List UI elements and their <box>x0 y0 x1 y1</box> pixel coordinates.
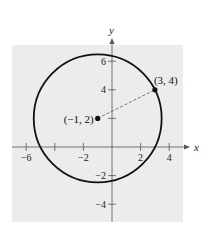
point-label: (3, 4) <box>154 74 178 87</box>
y-axis-arrow-icon <box>110 38 115 44</box>
x-tick-label: −6 <box>21 152 32 163</box>
point-marker <box>152 87 157 92</box>
y-tick-label: 4 <box>101 84 106 95</box>
y-axis-label: y <box>108 24 114 36</box>
y-tick-label: −4 <box>95 199 106 210</box>
y-tick-label: 6 <box>101 56 106 67</box>
x-axis-label: x <box>193 141 199 153</box>
point-marker <box>95 116 100 121</box>
x-tick-label: −2 <box>78 152 89 163</box>
circle-graph: xy−6−224−4−246(−1, 2)(3, 4) <box>0 0 212 229</box>
y-tick-label: −2 <box>95 170 106 181</box>
point-label: (−1, 2) <box>64 113 94 126</box>
plot-background <box>12 45 183 222</box>
x-tick-label: 4 <box>167 152 172 163</box>
x-axis-arrow-icon <box>184 145 190 150</box>
x-tick-label: 2 <box>138 152 143 163</box>
